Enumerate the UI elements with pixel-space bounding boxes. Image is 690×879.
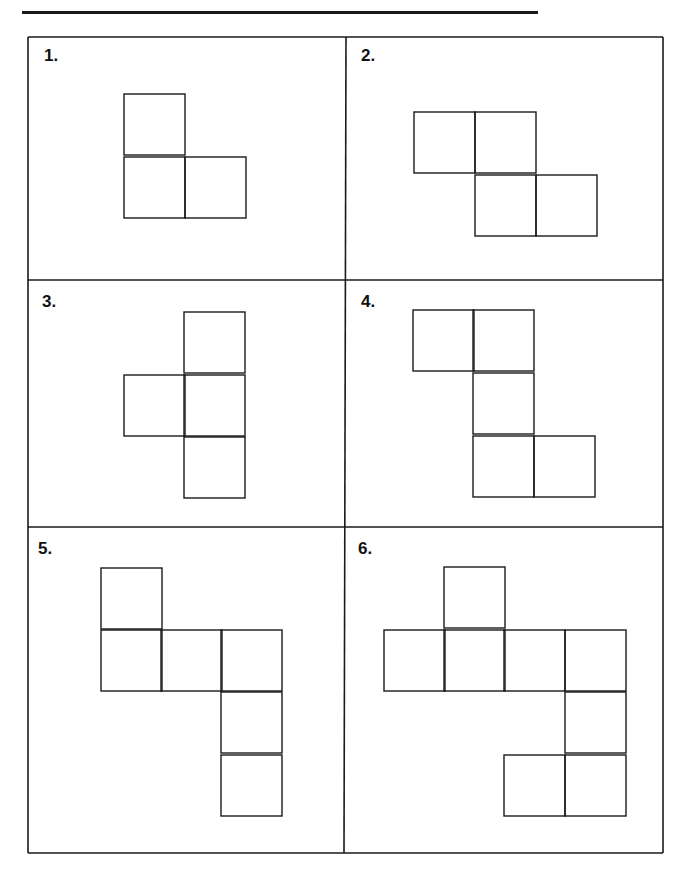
net-square: [504, 755, 565, 816]
net-square: [221, 692, 282, 753]
grid-frame: [28, 37, 663, 853]
net-square: [475, 175, 536, 236]
net-square: [473, 373, 534, 434]
net-square: [534, 436, 595, 497]
cube-net-5: [101, 568, 282, 816]
net-square: [221, 630, 282, 691]
cube-net-2: [414, 112, 597, 236]
net-square: [504, 630, 565, 691]
panel-label-6: 6.: [358, 539, 372, 559]
cube-net-4: [413, 310, 595, 497]
panel-label-4: 4.: [361, 292, 375, 312]
net-square: [444, 630, 505, 691]
panel-label-5: 5.: [38, 539, 52, 559]
panel-label-2: 2.: [361, 46, 375, 66]
panel-label-1: 1.: [44, 46, 58, 66]
net-square: [414, 112, 475, 173]
net-square: [565, 692, 626, 753]
grid-divider-vertical: [344, 37, 346, 853]
cube-nets: [101, 94, 626, 816]
net-square: [161, 630, 222, 691]
net-square: [124, 157, 185, 218]
net-square: [184, 375, 245, 436]
net-square: [444, 567, 505, 628]
net-square: [536, 175, 597, 236]
net-square: [413, 310, 474, 371]
net-square: [184, 437, 245, 498]
net-square: [473, 310, 534, 371]
net-square: [475, 112, 536, 173]
net-square: [473, 436, 534, 497]
net-square: [184, 312, 245, 373]
net-square: [101, 630, 162, 691]
net-square: [124, 375, 185, 436]
net-square: [101, 568, 162, 629]
net-square: [565, 755, 626, 816]
net-square: [124, 94, 185, 155]
net-square: [185, 157, 246, 218]
cube-net-1: [124, 94, 246, 218]
net-square: [221, 755, 282, 816]
cube-net-3: [124, 312, 245, 498]
worksheet-grid: [0, 0, 690, 879]
net-square: [565, 630, 626, 691]
panel-label-3: 3.: [42, 292, 56, 312]
cube-net-6: [384, 567, 626, 816]
net-square: [384, 630, 445, 691]
